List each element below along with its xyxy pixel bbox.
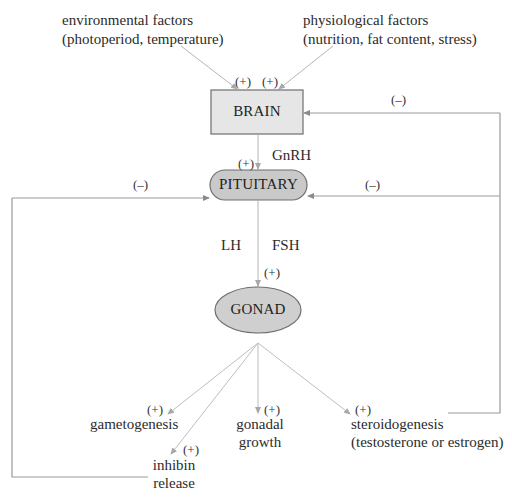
inhibin-label: inhibin [148,457,200,474]
lh-label: LH [221,237,241,254]
physiological-factors-label: physiological factors [303,12,428,29]
steroid-feedback-brain-sign: (–) [391,93,406,107]
gnrh-label: GnRH [272,147,311,164]
growth-label: growth [233,434,287,451]
inhibin-feedback-line [12,198,148,477]
environmental-factors-label: environmental factors [62,12,193,29]
steroidogenesis-detail: (testosterone or estrogen) [351,434,503,451]
brain-label: BRAIN [211,103,303,120]
pituitary-to-gonad-sign: (+) [264,266,280,280]
environmental-arrow [181,46,237,89]
inhibin-sign: (+) [183,443,199,457]
release-label: release [148,475,200,492]
pituitary-label: PITUITARY [210,176,307,193]
gonad-label: GONAD [215,301,301,318]
steroidogenesis-label: steroidogenesis [351,416,443,433]
gonadal-growth-sign: (+) [264,403,280,417]
fsh-label: FSH [272,237,300,254]
gonadal-label: gonadal [233,416,287,433]
gametogenesis-sign: (+) [147,403,163,417]
environmental-sign: (+) [235,75,251,89]
steroidogenesis-sign: (+) [355,403,371,417]
physiological-factors-detail: (nutrition, fat content, stress) [303,31,477,48]
steroid-feedback-line [448,113,500,413]
gametogenesis-label: gametogenesis [90,416,178,433]
physiological-arrow [279,46,333,89]
gametogenesis-arrow [168,343,258,414]
physiological-sign: (+) [262,75,278,89]
inhibin-feedback-pituitary-sign: (–) [133,178,148,192]
steroid-feedback-pituitary-sign: (–) [365,178,380,192]
environmental-factors-detail: (photoperiod, temperature) [62,31,224,48]
brain-to-pituitary-sign: (+) [238,157,254,171]
